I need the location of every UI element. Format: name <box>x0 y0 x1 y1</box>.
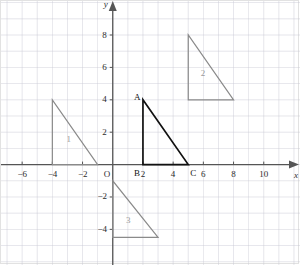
y-axis-label: 6 <box>102 63 107 72</box>
y-axis-label: −2 <box>98 192 108 201</box>
x-axis-label: −6 <box>18 170 28 179</box>
x-axis-label: −2 <box>78 170 88 179</box>
x-axis-name: x <box>294 171 298 180</box>
shape-label-3: 3 <box>126 216 131 225</box>
y-axis-label: −4 <box>98 225 108 234</box>
plot-canvas <box>1 1 300 265</box>
origin-label: O <box>104 170 111 179</box>
y-axis-label: 4 <box>102 95 107 104</box>
grid-lines <box>1 1 300 265</box>
x-axis-label: 2 <box>141 170 146 179</box>
x-axis-label: −4 <box>48 170 58 179</box>
axis-lines <box>1 1 299 265</box>
y-axis-label: 2 <box>102 128 107 137</box>
triangle-3 <box>113 181 158 238</box>
x-axis-label: 4 <box>171 170 176 179</box>
vertex-label-a: A <box>134 93 141 102</box>
shape-label-2: 2 <box>201 69 206 78</box>
x-axis-label: 8 <box>231 170 236 179</box>
vertex-label-b: B <box>134 169 140 178</box>
x-axis-label: 10 <box>259 170 268 179</box>
shape-label-1: 1 <box>66 135 71 144</box>
vertex-label-c: C <box>190 169 196 178</box>
x-axis-label: 6 <box>201 170 206 179</box>
y-axis-name: y <box>104 0 108 9</box>
y-axis-label: 8 <box>102 31 107 40</box>
